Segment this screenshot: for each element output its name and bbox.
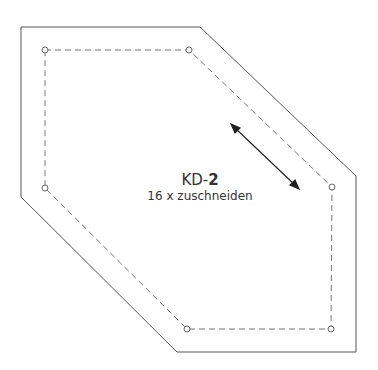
- piece-code: KD-2: [130, 172, 270, 189]
- piece-label: KD-2 16 x zuschneiden: [130, 172, 270, 203]
- cut-instruction: 16 x zuschneiden: [130, 189, 270, 203]
